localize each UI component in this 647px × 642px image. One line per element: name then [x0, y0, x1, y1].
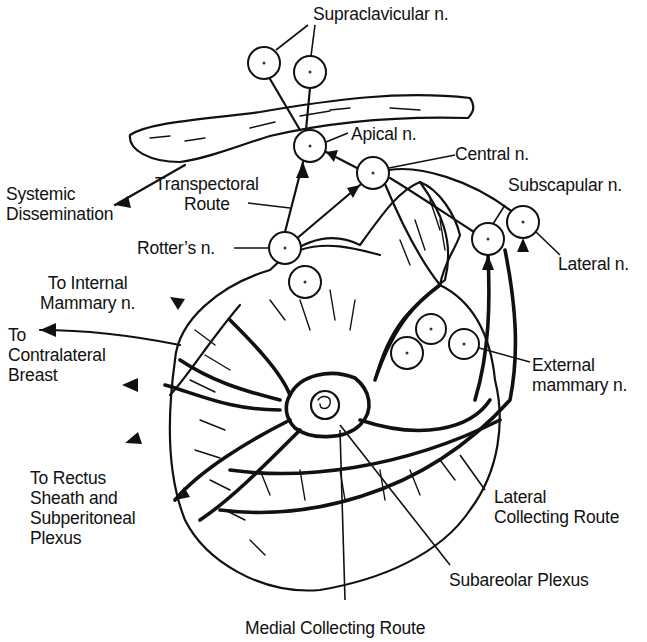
label-subareolar-plexus: Subareolar Plexus — [449, 570, 589, 590]
label-internal-mammary: To Internal Mammary n. — [40, 273, 135, 313]
label-medial-collecting-route: Medial Collecting Route — [245, 618, 425, 638]
label-central: Central n. — [455, 144, 529, 164]
label-lateral-collecting-route: Lateral Collecting Route — [494, 487, 619, 527]
areola — [286, 373, 369, 436]
label-supraclavicular: Supraclavicular n. — [313, 4, 449, 24]
label-transpectoral-route: Transpectoral Route — [155, 174, 259, 214]
label-subscapular: Subscapular n. — [508, 175, 622, 195]
label-contralateral-breast: To Contralateral Breast — [8, 325, 106, 385]
label-apical: Apical n. — [351, 124, 416, 144]
label-external-mammary: External mammary n. — [532, 355, 627, 395]
label-rectus-sheath: To Rectus Sheath and Subperitoneal Plexu… — [30, 468, 135, 548]
label-systemic-dissemination: Systemic Dissemination — [6, 184, 113, 224]
label-lateral: Lateral n. — [558, 254, 629, 274]
label-rotters: Rotter’s n. — [137, 238, 215, 258]
